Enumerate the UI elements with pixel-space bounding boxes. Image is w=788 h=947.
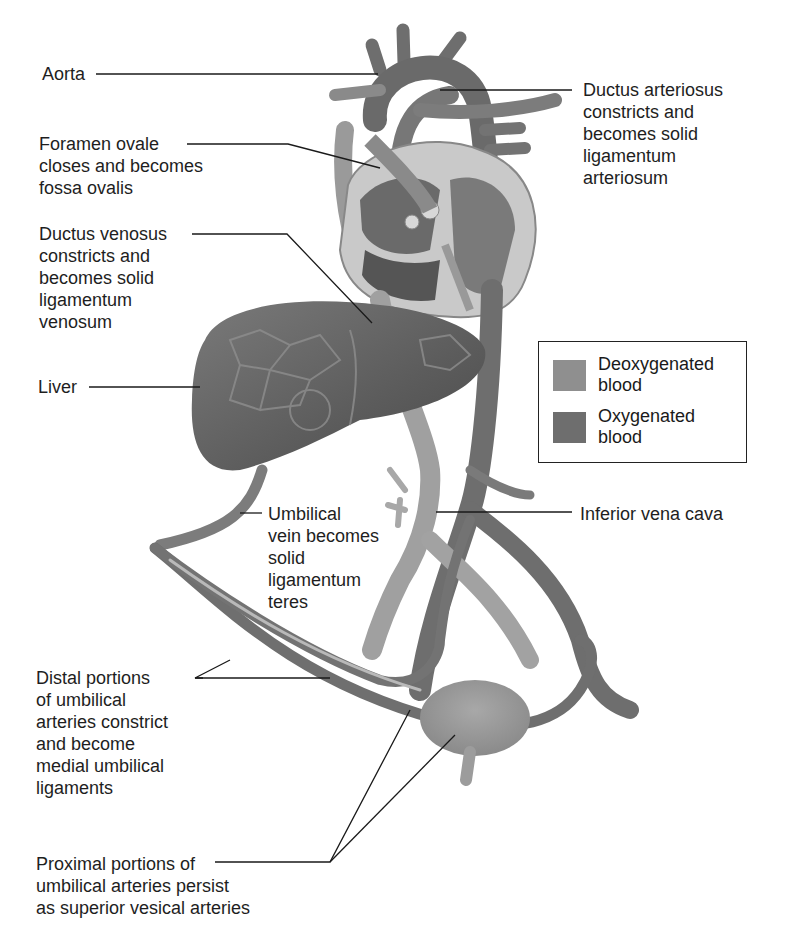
label-liver: Liver <box>38 376 77 398</box>
legend-label-oxygenated: Oxygenated blood <box>598 406 695 448</box>
label-inferior-vena-cava: Inferior vena cava <box>580 503 723 525</box>
label-umbilical-vein: Umbilical vein becomes solid ligamentum … <box>268 503 379 613</box>
label-foramen-ovale: Foramen ovale closes and becomes fossa o… <box>39 133 203 199</box>
heart <box>340 140 536 317</box>
label-ductus-venosus: Ductus venosus constricts and becomes so… <box>39 223 167 333</box>
legend-item-deoxygenated: Deoxygenated blood <box>553 354 714 396</box>
liver <box>192 301 486 470</box>
deoxygenated-swatch <box>553 360 586 391</box>
label-proximal-umbilical-arteries: Proximal portions of umbilical arteries … <box>36 853 250 919</box>
legend: Deoxygenated blood Oxygenated blood <box>538 341 747 463</box>
legend-label-deoxygenated: Deoxygenated blood <box>598 354 714 396</box>
label-distal-umbilical-arteries: Distal portions of umbilical arteries co… <box>36 667 168 799</box>
legend-item-oxygenated: Oxygenated blood <box>553 406 695 448</box>
oxygenated-swatch <box>553 412 586 443</box>
label-aorta: Aorta <box>42 63 85 85</box>
bladder <box>420 680 530 756</box>
urachus <box>466 752 470 780</box>
label-ductus-arteriosus: Ductus arteriosus constricts and becomes… <box>583 79 723 189</box>
